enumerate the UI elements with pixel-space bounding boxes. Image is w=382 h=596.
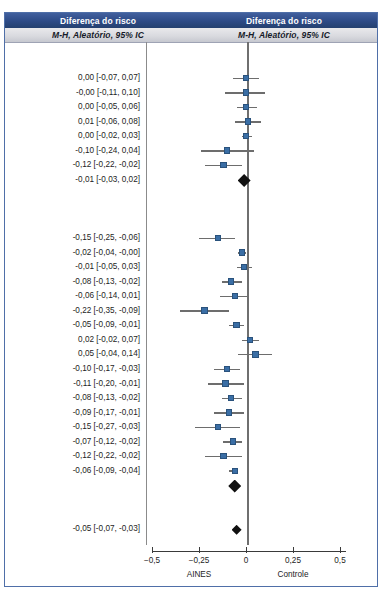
axis-tick-label: 0,25 xyxy=(285,556,301,565)
effect-marker xyxy=(243,89,249,95)
forest-row xyxy=(146,318,377,333)
axis-tick xyxy=(340,547,341,553)
x-axis: −0,5−0,2500,250,5AINESControle xyxy=(146,551,377,553)
header-title-band: Diferença do risco Diferença do risco xyxy=(5,13,377,28)
estimate-label: 0,05 [-0,04, 0,14] xyxy=(6,347,144,362)
estimate-label: -0,05 [-0,09, -0,01] xyxy=(6,318,144,333)
spacer-row xyxy=(6,42,144,57)
forest-row xyxy=(146,304,377,319)
effect-marker xyxy=(247,337,253,343)
estimate-label: -0,22 [-0,35, -0,09] xyxy=(6,304,144,319)
effect-marker xyxy=(243,133,249,139)
effect-marker xyxy=(220,162,226,168)
estimate-label: -0,06 [-0,14, 0,01] xyxy=(6,289,144,304)
effect-estimate-column: 0,00 [-0,07, 0,07]-0,00 [-0,11, 0,10]0,0… xyxy=(6,42,144,551)
axis-tick xyxy=(152,547,153,553)
axis-tick-label: 0,5 xyxy=(334,556,345,565)
estimate-label: -0,07 [-0,12, -0,02] xyxy=(6,435,144,450)
estimate-label: 0,00 [-0,05, 0,06] xyxy=(6,100,144,115)
axis-tick xyxy=(199,547,200,553)
forest-row xyxy=(146,479,377,494)
estimate-label: -0,00 [-0,11, 0,10] xyxy=(6,86,144,101)
forest-row xyxy=(146,246,377,261)
forest-row xyxy=(146,420,377,435)
spacer-row xyxy=(6,508,144,523)
axis-group-label: Controle xyxy=(278,570,309,579)
forest-row xyxy=(146,260,377,275)
spacer-row xyxy=(6,537,144,552)
estimate-label: 0,01 [-0,06, 0,08] xyxy=(6,115,144,130)
header-right-subtitle: M-H, Aleatório, 95% IC xyxy=(191,28,377,42)
spacer-row xyxy=(6,187,144,202)
estimate-label: -0,12 [-0,22, -0,02] xyxy=(6,449,144,464)
effect-marker xyxy=(215,235,221,241)
estimate-label: -0,09 [-0,17, -0,01] xyxy=(6,406,144,421)
forest-row xyxy=(146,362,377,377)
effect-marker xyxy=(222,380,228,386)
estimate-label: -0,08 [-0,13, -0,02] xyxy=(6,275,144,290)
axis-tick-label: −0,5 xyxy=(144,556,160,565)
estimate-label: -0,12 [-0,22, -0,02] xyxy=(6,158,144,173)
spacer-row xyxy=(6,217,144,232)
subgroup-effect-diamond xyxy=(238,174,251,187)
effect-marker xyxy=(226,409,232,415)
estimate-label: -0,10 [-0,24, 0,04] xyxy=(6,144,144,159)
forest-row xyxy=(146,275,377,290)
forest-row xyxy=(146,173,377,188)
effect-marker xyxy=(224,366,230,372)
forest-row xyxy=(146,100,377,115)
header-left-subtitle: M-H, Aleatório, 95% IC xyxy=(5,28,191,42)
header-right-title: Diferença do risco xyxy=(191,13,377,28)
estimate-label: -0,15 [-0,27, -0,03] xyxy=(6,420,144,435)
effect-marker xyxy=(215,424,221,430)
estimate-label: 0,00 [-0,07, 0,07] xyxy=(6,71,144,86)
estimate-label: -0,01 [-0,05, 0,03] xyxy=(6,260,144,275)
effect-marker xyxy=(243,75,249,81)
forest-row xyxy=(146,406,377,421)
effect-marker xyxy=(232,293,238,299)
estimate-label: 0,00 [-0,02, 0,03] xyxy=(6,129,144,144)
estimate-label: -0,01 [-0,03, 0,02] xyxy=(6,173,144,188)
effect-marker xyxy=(243,104,249,110)
header-subtitle-band: M-H, Aleatório, 95% IC M-H, Aleatório, 9… xyxy=(5,28,377,43)
spacer-row xyxy=(6,57,144,72)
forest-row xyxy=(146,71,377,86)
forest-row xyxy=(146,115,377,130)
estimate-label xyxy=(6,478,144,493)
effect-marker xyxy=(220,453,226,459)
header-left-title: Diferença do risco xyxy=(5,13,191,28)
axis-tick-label: −0,25 xyxy=(189,556,210,565)
axis-group-label: AINES xyxy=(187,570,212,579)
forest-row xyxy=(146,158,377,173)
effect-marker xyxy=(228,278,234,284)
forest-row xyxy=(146,377,377,392)
forest-row xyxy=(146,333,377,348)
forest-row xyxy=(146,435,377,450)
effect-marker xyxy=(245,118,251,124)
spacer-row xyxy=(6,202,144,217)
effect-marker xyxy=(201,307,207,313)
axis-tick xyxy=(293,547,294,553)
axis-line xyxy=(152,551,346,552)
estimate-label: -0,15 [-0,25, -0,06] xyxy=(6,231,144,246)
forest-row xyxy=(146,522,377,537)
forest-row xyxy=(146,231,377,246)
estimate-label: -0,05 [-0,07, -0,03] xyxy=(6,522,144,537)
estimate-label: -0,02 [-0,04, -0,00] xyxy=(6,246,144,261)
estimate-label: -0,08 [-0,13, -0,02] xyxy=(6,391,144,406)
spacer-row xyxy=(6,493,144,508)
forest-row xyxy=(146,348,377,363)
effect-marker xyxy=(228,395,234,401)
forest-row xyxy=(146,144,377,159)
forest-plot-figure: Diferença do risco Diferença do risco M-… xyxy=(0,0,382,596)
axis-tick-label: 0 xyxy=(244,556,249,565)
forest-row xyxy=(146,289,377,304)
effect-marker xyxy=(252,351,258,357)
forest-row xyxy=(146,449,377,464)
forest-row xyxy=(146,129,377,144)
subgroup-effect-diamond xyxy=(228,480,241,493)
effect-marker xyxy=(232,468,238,474)
forest-row xyxy=(146,391,377,406)
effect-marker xyxy=(241,264,247,270)
forest-row xyxy=(146,464,377,479)
